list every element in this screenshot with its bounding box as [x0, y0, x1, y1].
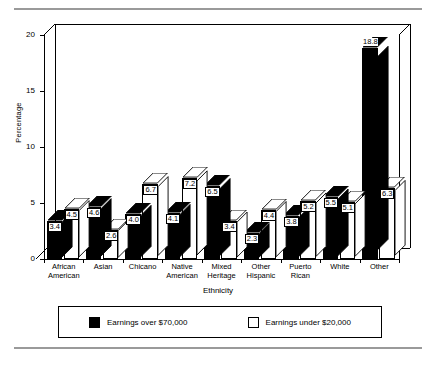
- bar-value-label: 6.5: [205, 187, 219, 197]
- bar-value-label: 3.4: [222, 222, 236, 232]
- bar-value-label: 4.5: [65, 210, 79, 220]
- bar-value-label: 4.0: [126, 215, 140, 225]
- legend-label-earnings-under: Earnings under $20,000: [266, 318, 351, 327]
- bar-value-label: 3.8: [284, 217, 298, 227]
- bar-side-face: [259, 222, 270, 260]
- bar-value-label: 7.2: [183, 179, 197, 189]
- legend-swatch-black: [89, 317, 100, 328]
- x-category-line: American: [38, 271, 89, 280]
- bar-value-label: 18.8: [363, 38, 378, 46]
- legend-swatch-white: [248, 317, 259, 328]
- bar-value-label: 4.1: [166, 214, 180, 224]
- bar-value-label: 2.6: [104, 231, 118, 241]
- legend-item-earnings-under: Earnings under $20,000: [248, 317, 351, 328]
- x-tick-mark: [44, 259, 45, 263]
- bar-side-face: [180, 202, 191, 260]
- bar-value-label: 5.2: [301, 202, 315, 212]
- bar-value-label: 3.4: [48, 222, 62, 232]
- bar-value-label: 5.1: [341, 203, 355, 213]
- bar-side-face: [197, 167, 208, 260]
- bar-side-face: [101, 196, 112, 260]
- bar-side-face: [378, 37, 389, 260]
- legend-label-earnings-over: Earnings over $70,000: [107, 318, 188, 327]
- bar-side-face: [79, 198, 90, 260]
- bottom-divider: [14, 347, 422, 349]
- bar-value-label: 2.3: [245, 234, 259, 244]
- bar-value-label: 5.5: [324, 198, 338, 208]
- x-axis-title: Ethnicity: [0, 286, 436, 295]
- bar-value-label: 4.6: [87, 208, 101, 218]
- bar-value-label: 6.3: [380, 189, 394, 199]
- bar-side-face: [395, 177, 406, 260]
- x-category-label: Other: [354, 262, 405, 271]
- chart-page: Percentage 05101520 18.86.35.55.13.85.22…: [0, 0, 436, 366]
- legend-item-earnings-over: Earnings over $70,000: [89, 317, 188, 328]
- x-category-line: Other: [354, 262, 405, 271]
- x-category-line: Rican: [275, 271, 326, 280]
- bar-side-face: [338, 186, 349, 260]
- bar-side-face: [276, 199, 287, 260]
- bar-series-group: 18.86.35.55.13.85.22.34.46.53.44.17.24.0…: [0, 0, 436, 300]
- bar-value-label: 6.7: [143, 185, 157, 195]
- bar-side-face: [355, 191, 366, 260]
- bar-side-face: [220, 175, 231, 260]
- chart-legend: Earnings over $70,000 Earnings under $20…: [58, 306, 382, 338]
- bar-side-face: [299, 205, 310, 260]
- bar-value-label: 4.4: [262, 211, 276, 221]
- bar-side-face: [141, 203, 152, 260]
- bar-chart-plot: Percentage 05101520 18.86.35.55.13.85.22…: [0, 0, 436, 300]
